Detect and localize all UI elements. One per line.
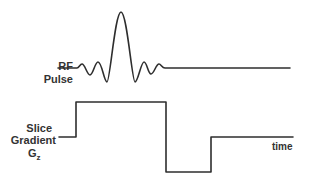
gradient-symbol-g: G [28,147,37,159]
gradient-symbol-subscript: z [37,153,41,162]
rf-label-line1: RF [58,60,73,72]
slice-gradient-waveform [59,102,293,172]
gradient-label-symbol: Gz [28,147,41,162]
pulse-sequence-diagram: RF Pulse Slice Gradient Gz time [0,0,313,184]
rf-label-line2: Pulse [44,73,73,85]
gradient-label-line2: Gradient [11,134,57,146]
rf-sinc-waveform [58,12,290,82]
gradient-label-line1: Slice [26,122,52,134]
time-axis-label: time [272,141,293,152]
